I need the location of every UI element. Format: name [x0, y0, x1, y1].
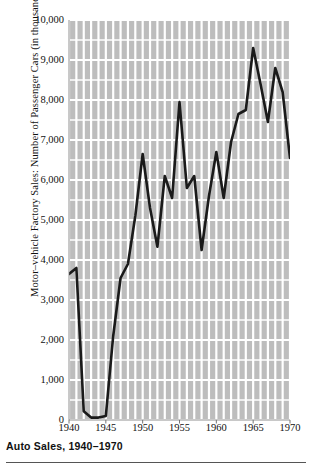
x-tick-label: 1945 — [86, 422, 126, 433]
x-tick-label: 1960 — [196, 422, 236, 433]
x-tick-label: 1950 — [123, 422, 163, 433]
figure-caption: Auto Sales, 1940–1970 — [6, 440, 123, 452]
figure: Motor–vehicle Factory Sales: Number of P… — [0, 0, 313, 471]
x-tick-label: 1955 — [160, 422, 200, 433]
x-tick-label: 1970 — [270, 422, 310, 433]
line-chart-svg — [0, 0, 313, 434]
chart-plot-area: Motor–vehicle Factory Sales: Number of P… — [0, 0, 313, 434]
grid-horizontal-lines — [69, 20, 290, 420]
caption-divider-rule — [6, 462, 306, 463]
x-tick-label: 1940 — [49, 422, 89, 433]
x-axis-tick-labels: 1940194519501955196019651970 — [0, 422, 313, 438]
x-tick-label: 1965 — [233, 422, 273, 433]
